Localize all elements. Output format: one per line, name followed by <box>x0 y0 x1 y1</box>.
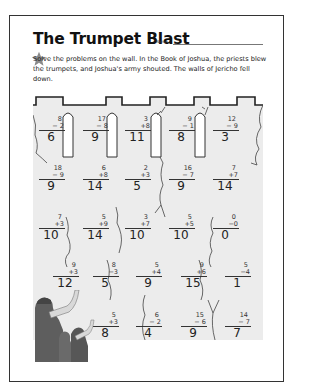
problem: 6 +8 14 <box>83 164 109 193</box>
problem: 5 −4 1 <box>225 261 251 290</box>
problem: 14 − 7 7 <box>225 311 251 340</box>
problem: 16 − 7 9 <box>169 164 195 193</box>
problem: 3 +7 10 <box>125 213 151 242</box>
problem: 5 +3 8 <box>93 311 119 340</box>
problem: 0 −0 0 <box>213 213 239 242</box>
name-label: Name <box>156 39 168 44</box>
problem: 18 − 9 9 <box>39 164 65 193</box>
problem: 9 − 1 8 <box>169 115 195 144</box>
problem: 5 +5 10 <box>169 213 195 242</box>
problem: 9 +6 15 <box>181 261 207 290</box>
problem: 5 +9 14 <box>83 213 109 242</box>
problem: 12 − 9 3 <box>213 115 239 144</box>
problem: 7 +3 10 <box>39 213 65 242</box>
problem: 5 +4 9 <box>136 261 162 290</box>
problem: 17 − 8 9 <box>83 115 109 144</box>
problem: 3 +8 11 <box>125 115 151 144</box>
problem: 8 − 2 6 <box>39 115 65 144</box>
problem: 6 − 2 4 <box>136 311 162 340</box>
trumpeters-illustration <box>33 290 95 362</box>
problem: 2 +3 5 <box>125 164 151 193</box>
problem: 8 −3 5 <box>93 261 119 290</box>
problem: 7 +7 14 <box>213 164 239 193</box>
problem: 15 − 6 9 <box>181 311 207 340</box>
problem: 9 +3 12 <box>53 261 79 290</box>
instructions-text: Solve the problems on the wall. In the B… <box>33 54 268 84</box>
name-field-line[interactable] <box>173 44 263 45</box>
